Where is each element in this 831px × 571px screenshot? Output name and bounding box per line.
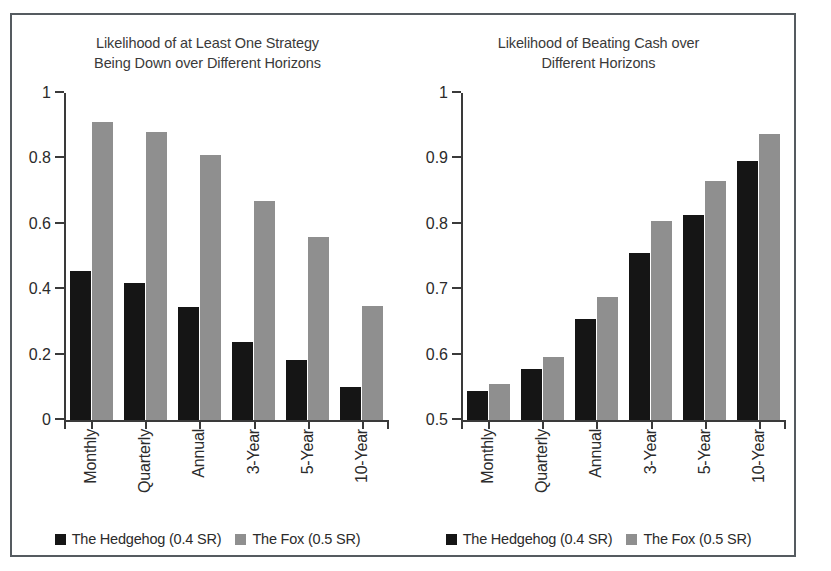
chart-panel-right: Likelihood of Beating Cash over Differen… bbox=[403, 15, 794, 555]
x-axis-line-left bbox=[64, 420, 389, 422]
x-axis-label: 5-Year bbox=[696, 429, 714, 474]
x-axis-label: Monthly bbox=[82, 429, 100, 484]
bar bbox=[362, 306, 383, 420]
bar bbox=[232, 342, 253, 420]
y-axis-tick-left bbox=[55, 418, 64, 420]
y-axis-tick-label-right: 0.7 bbox=[426, 280, 448, 298]
y-axis-tick-left bbox=[55, 353, 64, 355]
x-axis-line-right bbox=[461, 420, 786, 422]
bar bbox=[705, 181, 726, 420]
x-axis-label-cell: 3-Year bbox=[624, 427, 678, 523]
bar bbox=[683, 215, 704, 420]
bar bbox=[340, 387, 361, 420]
bar bbox=[597, 297, 618, 420]
bar bbox=[629, 253, 650, 420]
bar bbox=[575, 319, 596, 420]
y-axis-tick-label-left: 0.6 bbox=[29, 215, 51, 233]
bar bbox=[200, 155, 221, 420]
y-axis-tick-label-left: 0.2 bbox=[29, 346, 51, 364]
bar-group bbox=[172, 93, 226, 420]
legend-item: The Fox (0.5 SR) bbox=[626, 531, 751, 547]
y-axis-tick-label-left: 0.4 bbox=[29, 280, 51, 298]
bar bbox=[146, 132, 167, 420]
plot-wrap-right: 0.50.60.70.80.91 MonthlyQuarterlyAnnual3… bbox=[403, 15, 794, 555]
x-axis-labels-left: MonthlyQuarterlyAnnual3-Year5-Year10-Yea… bbox=[64, 427, 389, 523]
x-axis-label-cell: Monthly bbox=[461, 427, 515, 523]
bar bbox=[467, 391, 488, 420]
bar-group bbox=[118, 93, 172, 420]
bar bbox=[543, 357, 564, 420]
bar bbox=[521, 369, 542, 420]
plot-area-left: 00.20.40.60.81 bbox=[64, 93, 389, 420]
x-axis-label-cell: Quarterly bbox=[515, 427, 569, 523]
bar-group-container-right bbox=[461, 93, 786, 420]
x-axis-label-cell: Annual bbox=[569, 427, 623, 523]
bar bbox=[70, 271, 91, 420]
y-axis-tick-right bbox=[452, 353, 461, 355]
y-axis-tick-right bbox=[452, 287, 461, 289]
bar bbox=[489, 384, 510, 420]
bar-group bbox=[461, 93, 515, 420]
bar bbox=[651, 221, 672, 420]
legend-item: The Hedgehog (0.4 SR) bbox=[55, 531, 222, 547]
x-axis-label: 3-Year bbox=[642, 429, 660, 474]
bar-group bbox=[678, 93, 732, 420]
x-axis-label: Quarterly bbox=[533, 429, 551, 493]
x-axis-label-cell: Annual bbox=[172, 427, 226, 523]
bar-group bbox=[569, 93, 623, 420]
y-axis-tick-left bbox=[55, 156, 64, 158]
y-axis-tick-label-left: 0.8 bbox=[29, 149, 51, 167]
x-axis-label: Annual bbox=[587, 429, 605, 478]
y-axis-tick-label-right: 0.9 bbox=[426, 149, 448, 167]
x-axis-label: 5-Year bbox=[299, 429, 317, 474]
legend-swatch-icon bbox=[235, 534, 246, 545]
legend-swatch-icon bbox=[446, 534, 457, 545]
bar-group bbox=[335, 93, 389, 420]
bar-group bbox=[732, 93, 786, 420]
x-axis-label: 3-Year bbox=[245, 429, 263, 474]
bar bbox=[254, 201, 275, 420]
x-axis-label-cell: 10-Year bbox=[732, 427, 786, 523]
bar bbox=[759, 134, 780, 420]
y-axis-tick-label-right: 1 bbox=[439, 84, 448, 102]
bar-group bbox=[624, 93, 678, 420]
x-axis-label: Annual bbox=[190, 429, 208, 478]
bar bbox=[124, 283, 145, 420]
legend-item: The Hedgehog (0.4 SR) bbox=[446, 531, 613, 547]
x-axis-label: 10-Year bbox=[750, 429, 768, 483]
bar bbox=[92, 122, 113, 420]
x-axis-label-cell: 5-Year bbox=[281, 427, 335, 523]
x-axis-label: Monthly bbox=[479, 429, 497, 484]
y-axis-tick-label-right: 0.8 bbox=[426, 215, 448, 233]
legend-label: The Fox (0.5 SR) bbox=[643, 531, 751, 547]
y-axis-tick-right bbox=[452, 91, 461, 93]
legend-item: The Fox (0.5 SR) bbox=[235, 531, 360, 547]
x-axis-labels-right: MonthlyQuarterlyAnnual3-Year5-Year10-Yea… bbox=[461, 427, 786, 523]
legend-label: The Fox (0.5 SR) bbox=[252, 531, 360, 547]
plot-area-right: 0.50.60.70.80.91 bbox=[461, 93, 786, 420]
chart-panels: Likelihood of at Least One Strategy Bein… bbox=[12, 15, 794, 555]
plot-wrap-left: 00.20.40.60.81 MonthlyQuarterlyAnnual3-Y… bbox=[12, 15, 403, 555]
y-axis-tick-left bbox=[55, 222, 64, 224]
x-axis-label: 10-Year bbox=[353, 429, 371, 483]
bar-group bbox=[515, 93, 569, 420]
bar bbox=[286, 360, 307, 420]
bar bbox=[178, 307, 199, 420]
x-axis-label: Quarterly bbox=[136, 429, 154, 493]
x-axis-label-cell: 5-Year bbox=[678, 427, 732, 523]
y-axis-tick-left bbox=[55, 287, 64, 289]
legend-left: The Hedgehog (0.4 SR)The Fox (0.5 SR) bbox=[12, 531, 403, 547]
bar-group bbox=[227, 93, 281, 420]
bar bbox=[737, 161, 758, 420]
bar bbox=[308, 237, 329, 420]
x-axis-label-cell: Monthly bbox=[64, 427, 118, 523]
y-axis-tick-label-right: 0.5 bbox=[426, 411, 448, 429]
x-axis-label-cell: 10-Year bbox=[335, 427, 389, 523]
bar-group-container-left bbox=[64, 93, 389, 420]
bar-group bbox=[64, 93, 118, 420]
bar-group bbox=[281, 93, 335, 420]
y-axis-tick-label-right: 0.6 bbox=[426, 346, 448, 364]
legend-swatch-icon bbox=[626, 534, 637, 545]
legend-right: The Hedgehog (0.4 SR)The Fox (0.5 SR) bbox=[403, 531, 794, 547]
y-axis-tick-right bbox=[452, 222, 461, 224]
